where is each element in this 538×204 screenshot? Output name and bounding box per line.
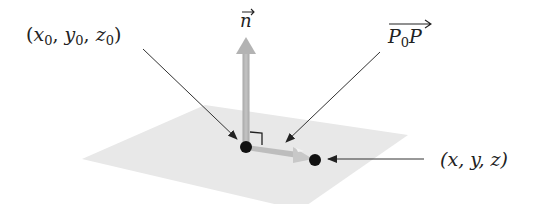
- svg-text:n: n: [240, 10, 252, 31]
- label-normal-vector: n: [240, 9, 254, 31]
- plane-diagram: (x0, y0, z0) n P0P (x, y, z): [0, 0, 538, 204]
- label-vector-p0p: P0P: [387, 20, 431, 50]
- point-p0-dot: [240, 141, 252, 153]
- label-point-p: (x, y, z): [440, 148, 508, 170]
- label-point-p0: (x0, y0, z0): [26, 23, 121, 48]
- svg-text:P0P: P0P: [387, 25, 423, 50]
- point-p-dot: [309, 154, 321, 166]
